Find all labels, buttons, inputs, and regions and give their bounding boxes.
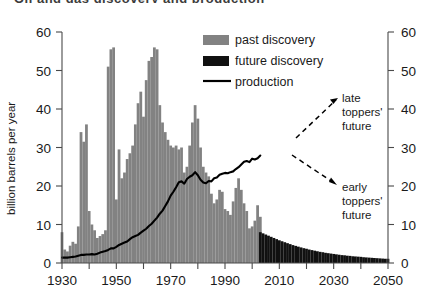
past-discovery-bar	[101, 234, 104, 263]
future-discovery-bar	[351, 256, 354, 263]
future-discovery-bar	[308, 250, 311, 263]
x-axis-tick-1990: 1990	[210, 273, 240, 288]
y-axis-right-tick-30: 30	[401, 141, 416, 156]
past-discovery-bar	[129, 153, 132, 263]
past-discovery-bar	[71, 242, 74, 263]
past-discovery-bar	[226, 211, 229, 263]
past-discovery-bar	[196, 119, 199, 263]
late-toppers-arrow	[296, 100, 336, 138]
y-axis-right-tick-50: 50	[401, 64, 416, 79]
past-discovery-bar	[107, 67, 110, 263]
past-discovery-bar	[254, 221, 257, 263]
late-toppers-line-2: toppers'	[342, 106, 383, 118]
future-discovery-bar	[365, 257, 368, 263]
y-axis-right-tick-60: 60	[401, 25, 416, 40]
chart-title-cutoff: Oil and gas discovery and production	[14, 0, 414, 3]
future-discovery-bar	[373, 258, 376, 263]
legend-label-production: production	[235, 75, 293, 89]
late-toppers-annotation: late toppers' future	[296, 92, 383, 138]
future-discovery-bar	[362, 257, 365, 263]
past-discovery-bar	[172, 148, 175, 264]
legend-swatch-future-discovery	[203, 56, 229, 66]
past-discovery-bar	[80, 132, 83, 263]
past-discovery-bar	[123, 173, 126, 263]
x-axis-tick-1950: 1950	[101, 273, 131, 288]
x-axis-tick-2050: 2050	[373, 273, 403, 288]
past-discovery-bar	[218, 190, 221, 263]
oil-discovery-production-chart: Oil and gas discovery and production 010…	[0, 0, 429, 299]
past-discovery-bar	[164, 132, 167, 263]
future-discovery-bar	[346, 256, 349, 263]
x-axis-tick-1970: 1970	[156, 273, 186, 288]
past-discovery-bar	[229, 215, 232, 263]
early-toppers-line-3: future	[342, 209, 371, 221]
y-axis-right-tick-10: 10	[401, 218, 416, 233]
past-discovery-bar	[251, 226, 254, 263]
future-discovery-bar	[278, 240, 281, 263]
early-toppers-arrowhead	[329, 178, 337, 186]
future-discovery-bar	[275, 239, 278, 263]
past-discovery-bar	[243, 203, 246, 263]
past-discovery-bar	[215, 199, 218, 263]
past-discovery-bar	[240, 190, 243, 263]
chart-legend: past discovery future discovery producti…	[203, 33, 324, 89]
past-discovery-bar	[221, 192, 224, 263]
y-axis-left-tick-20: 20	[36, 179, 51, 194]
late-toppers-line-3: future	[342, 120, 371, 132]
future-discovery-bar	[273, 238, 276, 263]
early-toppers-line-1: early	[342, 181, 367, 193]
future-discovery-bar	[267, 236, 270, 263]
y-axis-left-tick-40: 40	[36, 102, 51, 117]
future-discovery-bar	[262, 233, 265, 263]
past-discovery-bar	[126, 159, 129, 263]
future-discovery-bar	[283, 242, 286, 263]
past-discovery-bar	[142, 117, 145, 263]
future-discovery-bar	[311, 250, 314, 263]
early-toppers-annotation: early toppers' future	[292, 155, 383, 221]
legend-swatch-past-discovery	[203, 35, 229, 45]
future-discovery-bar	[259, 232, 262, 263]
past-discovery-bar	[148, 61, 151, 263]
future-discovery-bar	[354, 256, 357, 263]
future-discovery-bar	[324, 253, 327, 263]
past-discovery-bar	[63, 250, 66, 263]
past-discovery-bar	[74, 244, 77, 263]
y-axis-left-tick-30: 30	[36, 141, 51, 156]
past-discovery-bar	[224, 209, 227, 263]
future-discovery-bar	[264, 235, 267, 263]
past-discovery-bar	[207, 176, 210, 263]
y-axis-left-tick-0: 0	[43, 256, 51, 271]
future-discovery-bar	[381, 259, 384, 263]
past-discovery-bar	[115, 199, 118, 263]
future-discovery-bar	[292, 245, 295, 263]
future-discovery-bar	[302, 248, 305, 263]
past-discovery-bar	[248, 228, 251, 263]
x-axis: 1930195019701990201020302050	[47, 263, 403, 288]
y-axis-right: 0102030405060	[388, 25, 416, 271]
past-discovery-bar	[191, 122, 194, 263]
past-discovery-bar	[145, 80, 148, 263]
future-discovery-bar	[286, 243, 289, 263]
past-discovery-bar	[177, 149, 180, 263]
y-axis-left-tick-10: 10	[36, 218, 51, 233]
y-axis-left-tick-60: 60	[36, 25, 51, 40]
future-discovery-bar	[368, 258, 371, 263]
past-discovery-bar	[169, 146, 172, 263]
future-discovery-bar	[281, 241, 284, 263]
past-discovery-bar	[99, 236, 102, 263]
past-discovery-bar	[82, 142, 85, 263]
y-axis-title: billion barrels per year	[5, 102, 17, 215]
early-toppers-line-2: toppers'	[342, 195, 383, 207]
past-discovery-bar	[245, 211, 248, 263]
future-discovery-bar	[305, 249, 308, 263]
past-discovery-bar	[183, 173, 186, 263]
future-discovery-bar	[321, 252, 324, 263]
past-discovery-bar	[77, 226, 80, 263]
future-discovery-bar	[313, 251, 316, 263]
future-discovery-bar	[357, 257, 360, 263]
future-discovery-bar	[359, 257, 362, 263]
future-discovery-bar	[338, 255, 341, 263]
future-discovery-bar	[270, 237, 273, 263]
past-discovery-bar	[237, 178, 240, 263]
future-discovery-bar	[378, 258, 381, 263]
